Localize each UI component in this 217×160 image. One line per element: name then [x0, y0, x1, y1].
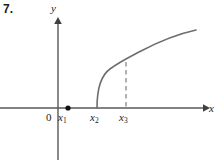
problem-number-label: 7.	[3, 3, 13, 15]
tick-label-x2-subscript: 2	[95, 116, 99, 125]
tick-label-x3: x3	[119, 112, 128, 123]
tick-label-x3-subscript: 3	[124, 116, 128, 125]
y-axis-label: y	[51, 3, 56, 14]
graph-canvas	[0, 0, 217, 160]
function-curve	[97, 30, 196, 108]
tick-label-x2: x2	[90, 112, 99, 123]
y-axis-arrowhead	[54, 17, 62, 24]
point-marker-x1	[65, 105, 70, 110]
origin-label: 0	[46, 112, 52, 123]
tick-label-x1-subscript: 1	[63, 116, 67, 125]
figure-container: 7. y x 0 x1 x2 x3	[0, 0, 217, 160]
tick-label-x1: x1	[58, 112, 67, 123]
x-axis-label: x	[209, 103, 214, 114]
